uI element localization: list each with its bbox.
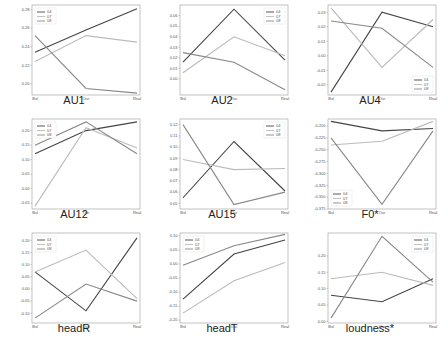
y-tick-label: 0.06 (170, 13, 179, 18)
y-tick-label: 0.10 (318, 286, 327, 291)
y-tick-label: -0.200 (314, 123, 326, 128)
legend: 040708 (331, 190, 352, 206)
chart-au1: 0.200.220.240.260.28BslOurReal040708AU1 (0, 0, 148, 114)
y-tick-label: 0.08 (170, 167, 179, 172)
chart-title: AU2 (148, 94, 296, 106)
y-tick-label: 0.20 (22, 128, 31, 133)
legend: 040708 (35, 122, 56, 138)
y-tick-label: 0.05 (22, 171, 31, 176)
series-line-07 (331, 272, 433, 285)
y-tick-label: 0.05 (318, 302, 327, 307)
chart-title: AU1 (0, 94, 148, 106)
chart-f0: -0.200-0.225-0.250-0.275-0.300-0.325-0.3… (296, 114, 444, 228)
y-tick-label: 0.22 (22, 63, 31, 68)
y-tick-label: 0.03 (318, 10, 327, 15)
y-tick-label: 0.26 (22, 25, 31, 30)
chart-title: F0* (296, 208, 444, 220)
y-tick-label: 0.00 (318, 53, 327, 58)
legend: 040708 (35, 236, 56, 252)
y-tick-label: 0.12 (170, 122, 179, 127)
legend: 040708 (264, 122, 285, 138)
series-line-07 (35, 128, 137, 206)
legend: 040708 (264, 8, 285, 24)
y-tick-label: -0.250 (314, 147, 326, 152)
y-tick-label: 0.00 (170, 76, 179, 81)
legend: 040708 (35, 8, 56, 24)
y-tick-label: 0.02 (170, 55, 179, 60)
series-line-04 (331, 279, 433, 302)
chart-headr: -0.10-0.050.000.050.100.150.20BslOurReal… (0, 228, 148, 342)
series-line-08 (35, 284, 137, 318)
y-tick-label: 0.00 (170, 261, 179, 266)
chart-title: headR (0, 322, 148, 334)
y-tick-label: 0.05 (170, 201, 179, 206)
series-line-07 (35, 250, 137, 299)
chart-au12: -0.050.000.050.100.150.20BslOurReal04070… (0, 114, 148, 228)
series-line-07 (35, 36, 137, 62)
legend: 040708 (183, 236, 204, 252)
series-line-08 (183, 53, 285, 90)
series-line-08 (331, 21, 433, 67)
y-tick-label: 0.07 (170, 178, 179, 183)
y-tick-label: -0.300 (314, 171, 326, 176)
y-tick-label: -0.02 (316, 82, 326, 87)
chart-title: headT (148, 322, 296, 334)
y-tick-label: -0.05 (20, 200, 30, 205)
chart-au15: 0.050.060.070.080.090.100.110.12BslOurRe… (148, 114, 296, 228)
y-tick-label: -0.05 (168, 275, 178, 280)
y-tick-label: 0.05 (170, 247, 179, 252)
y-tick-label: 0.10 (22, 157, 31, 162)
legend-label: 08 (276, 132, 281, 137)
y-tick-label: 0.09 (170, 156, 179, 161)
y-tick-label: 0.20 (22, 238, 31, 243)
chart-title: AU12 (0, 208, 148, 220)
legend: 040708 (412, 76, 433, 92)
y-tick-label: 0.28 (22, 7, 31, 12)
y-tick-label: 0.10 (170, 144, 179, 149)
y-tick-label: 0.06 (170, 189, 179, 194)
y-tick-label: -0.01 (316, 68, 326, 73)
y-tick-label: 0.04 (170, 34, 179, 39)
y-tick-label: -0.05 (20, 298, 30, 303)
chart-headt: -0.20-0.15-0.10-0.050.000.050.10BslOurRe… (148, 228, 296, 342)
series-line-07 (183, 160, 285, 170)
y-tick-label: -0.350 (314, 194, 326, 199)
chart-au2: 0.000.010.020.030.040.050.06BslOurReal04… (148, 0, 296, 114)
y-tick-label: 0.05 (170, 23, 179, 28)
series-line-08 (35, 36, 137, 94)
y-tick-label: 0.00 (22, 286, 31, 291)
series-line-04 (331, 121, 433, 130)
chart-title: AU4 (296, 94, 444, 106)
chart-title: AU15 (148, 208, 296, 220)
legend-label: 08 (47, 132, 52, 137)
y-tick-label: 0.03 (170, 45, 179, 50)
y-tick-label: 0.15 (22, 250, 31, 255)
y-tick-label: 0.00 (22, 186, 31, 191)
legend-label: 08 (276, 18, 281, 23)
y-tick-label: -0.10 (20, 311, 30, 316)
legend-label: 08 (343, 200, 348, 205)
y-tick-label: 0.24 (22, 44, 31, 49)
y-tick-label: -0.325 (314, 183, 326, 188)
y-tick-label: 0.15 (22, 142, 31, 147)
y-tick-label: 0.01 (318, 39, 327, 44)
legend: 040708 (412, 236, 433, 252)
y-tick-label: -0.10 (168, 289, 178, 294)
legend-label: 08 (47, 246, 52, 251)
y-tick-label: -0.225 (314, 135, 326, 140)
legend-label: 08 (195, 246, 200, 251)
legend-label: 08 (424, 246, 429, 251)
y-tick-label: 0.20 (318, 253, 327, 258)
series-line-07 (183, 37, 285, 73)
chart-au4: -0.02-0.010.000.010.020.03BslOurReal0407… (296, 0, 444, 114)
y-tick-label: -0.275 (314, 159, 326, 164)
y-tick-label: 0.20 (22, 81, 31, 86)
chart-loudness: 0.000.050.100.150.20BslOurReal040708loud… (296, 228, 444, 342)
y-tick-label: 0.05 (22, 274, 31, 279)
legend-label: 08 (424, 86, 429, 91)
y-tick-label: -0.15 (168, 303, 178, 308)
y-tick-label: 0.11 (170, 133, 178, 138)
series-line-07 (183, 263, 285, 314)
y-tick-label: 0.15 (318, 270, 327, 275)
chart-title: loudness* (296, 322, 444, 334)
